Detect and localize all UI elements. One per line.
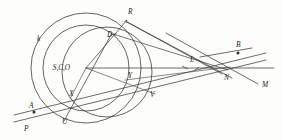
label-X: X — [68, 89, 74, 98]
label-k: k — [37, 34, 41, 43]
label-P: P — [23, 124, 29, 133]
tick-mark-L — [182, 66, 188, 69]
point-A-dot — [33, 111, 36, 114]
line-P — [14, 60, 266, 122]
label-A: A — [28, 101, 34, 110]
third-circle — [62, 27, 152, 117]
figure-canvas: k R D S,C,O B L N M Y V X U A P — [0, 0, 282, 140]
point-B-dot — [237, 52, 240, 55]
ray-L-to-D — [113, 34, 228, 70]
label-Y: Y — [128, 71, 133, 80]
line-center-to-V — [86, 68, 155, 94]
label-center: S,C,O — [53, 64, 71, 72]
line-through-A-X-Y-N — [14, 53, 266, 115]
line-U-D-N — [64, 33, 112, 121]
label-M: M — [261, 80, 269, 89]
label-L: L — [189, 55, 194, 64]
label-V: V — [150, 90, 156, 99]
line-through-B — [200, 48, 252, 57]
geometry-figure: k R D S,C,O B L N M Y V X U A P — [0, 0, 282, 140]
label-U: U — [62, 117, 68, 126]
label-N: N — [223, 73, 230, 82]
label-R: R — [127, 7, 133, 16]
label-B: B — [236, 40, 241, 49]
label-D: D — [106, 30, 113, 39]
